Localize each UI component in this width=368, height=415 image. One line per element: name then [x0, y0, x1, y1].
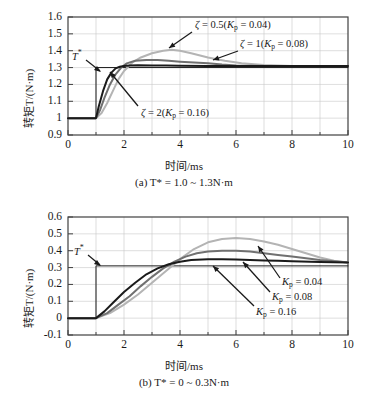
annotation-kp-0.16: Kp = 0.16	[256, 306, 296, 317]
x-axis-label-a: 时间/ms	[0, 157, 368, 173]
x-axis-label-b: 时间/ms	[0, 357, 368, 373]
x-tick-label: 10	[342, 139, 354, 151]
x-tick-label: 0	[65, 339, 71, 351]
plot-area-b	[0, 200, 368, 405]
annotation-kp-0.08: Kp = 0.08	[272, 291, 312, 302]
plot-area-a	[0, 0, 368, 205]
annotation-kp-0.04: Kp = 0.04	[282, 276, 322, 287]
chart-panel-a: 转矩T/(N·m) 1.61.51.41.31.21.110.9 0246810…	[0, 0, 368, 205]
annotation-zeta-0.5: ζ = 0.5(Kp = 0.04)	[195, 19, 271, 30]
chart-panel-b: 转矩T/(N·m) 0.60.50.40.30.20.10-0.1 024681…	[0, 200, 368, 415]
x-tick-label: 6	[233, 139, 239, 151]
undefined: T*	[72, 48, 82, 62]
undefined: T*	[74, 243, 84, 257]
x-tick-label: 2	[121, 139, 127, 151]
x-tick-label: 8	[289, 139, 295, 151]
x-tick-label: 4	[177, 339, 183, 351]
annotation-zeta-1: ζ = 1(Kp = 0.08)	[240, 38, 308, 49]
x-tick-label: 2	[121, 339, 127, 351]
figure-root: 转矩T/(N·m) 1.61.51.41.31.21.110.9 0246810…	[0, 0, 368, 415]
panel-caption-a: (a) T* = 1.0 ~ 1.3N·m	[0, 176, 368, 188]
x-tick-label: 0	[65, 139, 71, 151]
x-tick-label: 6	[233, 339, 239, 351]
x-tick-label: 4	[177, 139, 183, 151]
x-tick-label: 10	[342, 339, 354, 351]
panel-caption-b: (b) T* = 0 ~ 0.3N·m	[0, 376, 368, 388]
annotation-zeta-2: ζ = 2(Kp = 0.16)	[141, 107, 209, 118]
x-tick-label: 8	[289, 339, 295, 351]
